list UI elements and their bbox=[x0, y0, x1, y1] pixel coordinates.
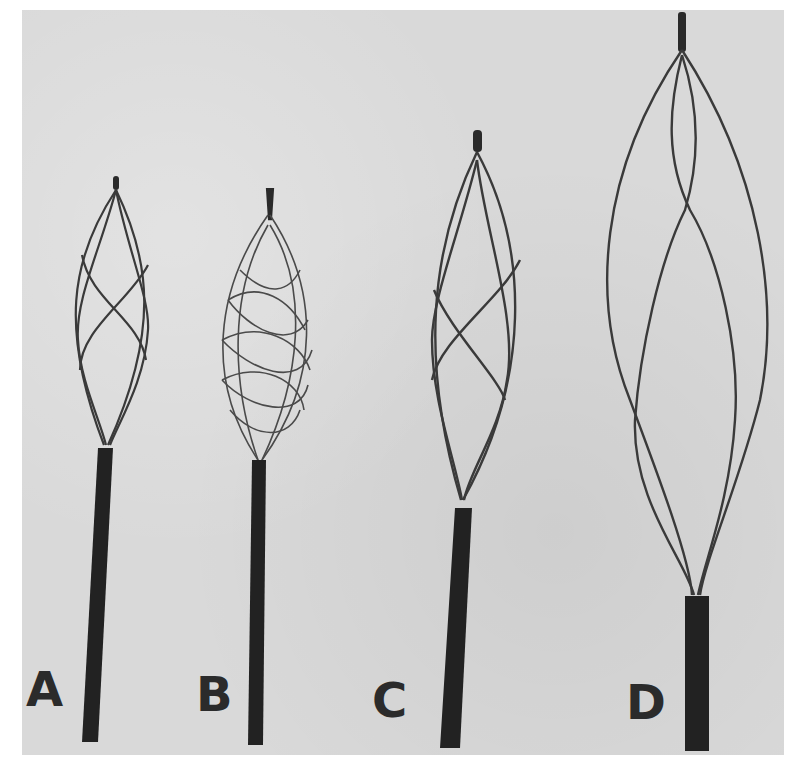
sheath-b bbox=[248, 460, 266, 745]
sheath-a bbox=[82, 448, 113, 742]
basket-d bbox=[607, 12, 767, 595]
label-a: A bbox=[26, 665, 63, 713]
basket-a bbox=[76, 176, 148, 445]
label-d: D bbox=[626, 678, 666, 726]
baskets-illustration bbox=[0, 0, 803, 770]
sheath-d bbox=[685, 596, 709, 751]
photograph bbox=[22, 10, 784, 755]
basket-c bbox=[432, 130, 520, 500]
sheath-c bbox=[440, 508, 472, 748]
basket-b bbox=[222, 190, 312, 460]
label-c: C bbox=[372, 676, 407, 724]
label-b: B bbox=[196, 670, 233, 718]
